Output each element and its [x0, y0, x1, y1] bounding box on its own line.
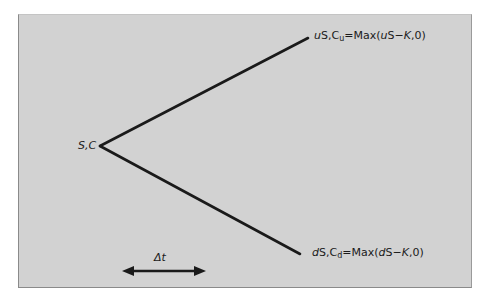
- time-step-arrow: [122, 266, 206, 276]
- down-branch: [100, 146, 300, 254]
- up-node-label: uS,Cu=Max(uS−K,0): [314, 30, 426, 45]
- time-step-label: Δt: [154, 252, 166, 264]
- down-node-label: dS,Cd=Max(dS−K,0): [312, 247, 424, 262]
- up-branch: [100, 38, 308, 146]
- root-node-label: S,C: [78, 140, 96, 152]
